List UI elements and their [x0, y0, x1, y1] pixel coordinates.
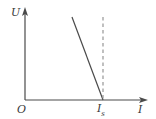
saturation-current-subscript: s: [101, 110, 105, 118]
x-axis: [25, 97, 148, 103]
characteristic-curve-line: [72, 17, 103, 100]
x-axis-label: I: [138, 104, 142, 115]
origin-label: O: [17, 104, 26, 115]
diagram-canvas: [0, 0, 156, 119]
physics-ui-characteristic-diagram: U O I Is: [0, 0, 156, 119]
y-axis-label: U: [11, 7, 20, 18]
saturation-current-label: Is: [97, 103, 105, 117]
y-axis: [22, 7, 28, 100]
